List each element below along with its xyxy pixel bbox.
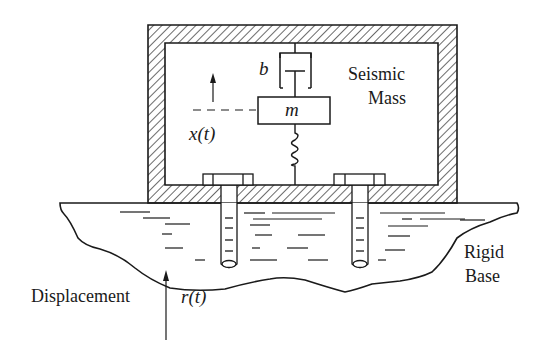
seismic-mass-label-line2: Mass bbox=[368, 89, 406, 107]
mass-displacement-label: x(t) bbox=[189, 124, 215, 143]
displacement-label: Displacement bbox=[31, 287, 130, 305]
damper bbox=[280, 43, 311, 97]
bolt-hole-right bbox=[352, 185, 368, 203]
base-displacement-arrow-icon bbox=[163, 270, 169, 340]
spring bbox=[292, 124, 299, 185]
damper-label: b bbox=[259, 59, 269, 78]
arrow-up-icon bbox=[210, 73, 216, 102]
bolt-hole-left bbox=[221, 185, 237, 203]
rigid-base-label-line2: Base bbox=[465, 267, 500, 285]
rigid-base-label-line1: Rigid bbox=[464, 243, 504, 261]
seismic-mass-label-line1: Seismic bbox=[348, 65, 405, 83]
base-displacement-label: r(t) bbox=[181, 287, 206, 306]
mass-label: m bbox=[285, 100, 299, 119]
